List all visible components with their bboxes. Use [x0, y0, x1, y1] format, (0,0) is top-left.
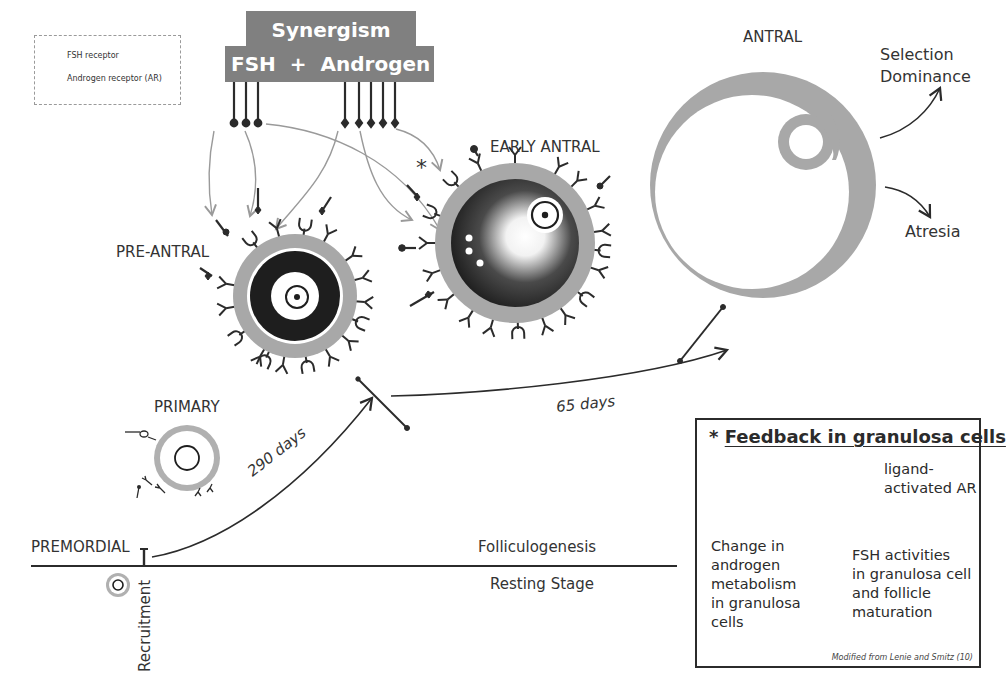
step2-line4: maturation	[852, 603, 971, 622]
antral-follicle	[650, 72, 876, 298]
step-fsh-activities: FSH activities in granulosa cell and fol…	[852, 546, 971, 622]
feedback-title: * Feedback in granulosa cells	[709, 426, 1006, 447]
signaling-arrows	[209, 124, 440, 230]
legend-androgen-receptor-label: Androgen receptor (AR)	[67, 74, 162, 83]
feedback-title-text: Feedback in granulosa cells	[725, 426, 1006, 447]
transition-bars	[356, 305, 726, 431]
fsh-label: FSH	[231, 52, 276, 76]
step3-line5: cells	[711, 613, 801, 632]
selection-text: Selection	[880, 44, 971, 66]
fsh-ligand-pins	[231, 82, 262, 126]
androgen-ligand-pins	[342, 82, 398, 127]
step3-line1: Change in	[711, 537, 801, 556]
premordial-label: PREMORDIAL	[31, 538, 130, 556]
step-ligand-activated-ar: ligand- activated AR	[884, 460, 976, 498]
growth-arrows	[152, 350, 727, 557]
step-androgen-metabolism: Change in androgen metabolism in granulo…	[711, 537, 801, 632]
androgen-label: Androgen	[321, 52, 431, 76]
feedback-asterisk: *	[416, 155, 427, 180]
feedback-star: *	[709, 426, 718, 447]
antral-label: ANTRAL	[743, 28, 802, 46]
step3-line4: in granulosa	[711, 594, 801, 613]
premordial-follicle	[106, 573, 130, 597]
recruitment-label: Recruitment	[136, 580, 154, 672]
dominance-text: Dominance	[880, 66, 971, 88]
early-antral-label: EARLY ANTRAL	[490, 138, 600, 156]
feedback-panel: * Feedback in granulosa cells ligand- ac…	[695, 418, 981, 668]
pre-antral-label: PRE-ANTRAL	[116, 243, 209, 261]
atresia-label: Atresia	[905, 222, 961, 241]
early-antral-follicle	[399, 146, 611, 340]
primary-label: PRIMARY	[154, 398, 220, 416]
selection-dominance-label: Selection Dominance	[880, 44, 971, 88]
step3-line2: androgen	[711, 556, 801, 575]
folliculogenesis-label: Folliculogenesis	[478, 538, 596, 556]
step3-line3: metabolism	[711, 575, 801, 594]
resting-stage-label: Resting Stage	[490, 575, 594, 593]
feedback-credit: Modified from Lenie and Smitz (10)	[832, 653, 973, 662]
legend-fsh-receptor-label: FSH receptor	[67, 51, 119, 60]
primary-follicle	[125, 425, 220, 498]
synergism-components: FSH + Androgen	[225, 46, 434, 82]
step1-line1: ligand-	[884, 460, 976, 479]
step2-line3: and follicle	[852, 584, 971, 603]
legend-box: FSH receptor Androgen receptor (AR)	[34, 35, 181, 105]
outcome-arrows	[880, 88, 940, 217]
plus-sign: +	[290, 52, 307, 76]
step2-line2: in granulosa cell	[852, 565, 971, 584]
synergism-title: Synergism	[246, 11, 416, 48]
step2-line1: FSH activities	[852, 546, 971, 565]
step1-line2: activated AR	[884, 479, 976, 498]
